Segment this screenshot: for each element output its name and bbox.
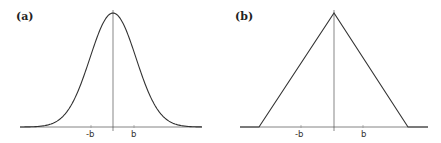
gaussian-curve <box>20 13 202 127</box>
panel-b-plot <box>240 10 428 131</box>
figure <box>0 0 441 143</box>
tick-neg-b-a: -b <box>86 130 94 139</box>
tick-neg-b-b: -b <box>295 130 303 139</box>
panel-a-plot <box>20 10 202 131</box>
panel-a-label: (a) <box>16 10 34 23</box>
tick-b-b: b <box>361 130 366 139</box>
panel-b-label: (b) <box>235 10 253 23</box>
tick-b-a: b <box>131 130 136 139</box>
